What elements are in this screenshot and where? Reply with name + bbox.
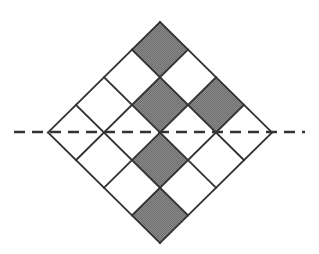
diamond-grid-figure bbox=[0, 0, 319, 254]
figure-root bbox=[0, 0, 319, 254]
